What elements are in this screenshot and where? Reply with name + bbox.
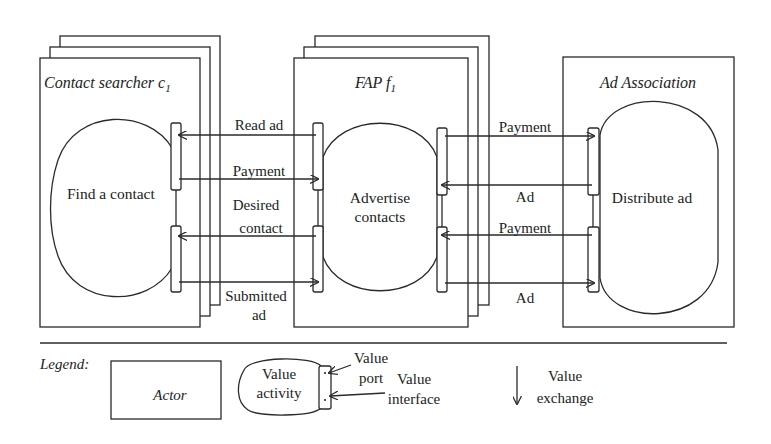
exchange-label: Ad: [516, 189, 535, 205]
legend-port-dot: [324, 372, 326, 374]
exchange-label: Payment: [233, 163, 286, 179]
legend-activity-line2: activity: [257, 385, 302, 401]
exchange-label-line1: Desired: [233, 197, 280, 213]
legend-value-port: Value port: [329, 350, 388, 386]
exchange-label: Read ad: [235, 117, 284, 133]
legend-port-line2: port: [359, 370, 384, 386]
activity-label-line1: Advertise: [350, 189, 410, 206]
activity-label-line2: contacts: [355, 208, 406, 225]
activity-label: Distribute ad: [612, 189, 693, 206]
exchange-label: Payment: [499, 119, 552, 135]
legend-exchange-line2: exchange: [537, 390, 594, 406]
actor-label: Ad Association: [599, 74, 696, 91]
exchange-label-line2: contact: [239, 220, 283, 236]
exchange-label-line1: Submitted: [225, 288, 287, 304]
e3value-diagram: Contact searcher c1 Find a contact FAP f…: [0, 0, 771, 444]
actor-ad-association[interactable]: Ad Association Distribute ad: [563, 57, 734, 327]
legend-value-activity: Value activity: [238, 359, 331, 415]
legend-port-dot: [324, 399, 326, 401]
exchange-label-line2: ad: [252, 307, 267, 323]
legend-activity-line1: Value: [262, 366, 296, 382]
legend-value-interface: Value interface: [330, 371, 441, 407]
value-activity-advertise-contacts[interactable]: Advertise contacts: [323, 123, 437, 291]
legend-interface-line1: Value: [397, 371, 431, 387]
value-port: [171, 123, 181, 190]
actor-contact-searcher[interactable]: Contact searcher c1 Find a contact: [40, 36, 220, 327]
value-port-ad-2[interactable]: [588, 227, 599, 292]
value-activity-find-a-contact[interactable]: Find a contact: [51, 119, 173, 296]
value-interface-cs-1[interactable]: [171, 123, 181, 190]
legend-title: Legend:: [39, 356, 89, 372]
value-port-fap-left-1[interactable]: [313, 123, 323, 190]
legend-interface-line2: interface: [388, 391, 441, 407]
value-port-fap-right-2[interactable]: [437, 227, 447, 292]
legend-actor: Actor: [111, 361, 221, 419]
legend: Legend: Actor Value activity Value port …: [39, 350, 594, 419]
value-activity-distribute-ad[interactable]: Distribute ad: [600, 101, 718, 313]
legend-actor-label: Actor: [152, 387, 186, 403]
legend-exchange-line1: Value: [548, 368, 582, 384]
activity-label: Find a contact: [67, 185, 156, 202]
exchange-label: Ad: [516, 290, 535, 306]
legend-port-line1: Value: [354, 350, 388, 366]
exchange-label: Payment: [499, 220, 552, 236]
legend-value-exchange: Value exchange: [517, 366, 594, 406]
